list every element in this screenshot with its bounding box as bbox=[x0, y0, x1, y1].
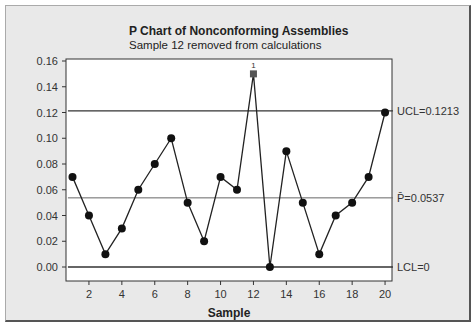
data-point bbox=[118, 224, 126, 232]
data-point bbox=[134, 186, 142, 194]
ucl-label: UCL=0.1213 bbox=[397, 105, 459, 117]
data-point bbox=[332, 212, 340, 220]
x-tick-label: 16 bbox=[313, 288, 325, 300]
data-point bbox=[299, 199, 307, 207]
y-tick-label: 0.12 bbox=[37, 107, 58, 119]
y-tick-label: 0.08 bbox=[37, 158, 58, 170]
data-point bbox=[151, 160, 159, 168]
x-tick-label: 8 bbox=[185, 288, 191, 300]
y-tick-label: 0.06 bbox=[37, 184, 58, 196]
x-tick-label: 6 bbox=[152, 288, 158, 300]
p-bar-label: P̄=0.0537 bbox=[397, 192, 444, 204]
y-tick-label: 0.16 bbox=[37, 55, 58, 67]
y-tick-label: 0.04 bbox=[37, 210, 58, 222]
data-point bbox=[217, 173, 225, 181]
lcl-label: LCL=0 bbox=[397, 261, 430, 273]
data-point bbox=[167, 134, 175, 142]
data-point bbox=[184, 199, 192, 207]
x-axis-label: Sample bbox=[208, 306, 251, 320]
x-tick-label: 20 bbox=[379, 288, 391, 300]
data-point bbox=[200, 237, 208, 245]
chart-subtitle: Sample 12 removed from calculations bbox=[129, 39, 322, 51]
plot-area bbox=[66, 59, 392, 281]
x-tick-label: 2 bbox=[86, 288, 92, 300]
y-tick-label: 0.10 bbox=[37, 132, 58, 144]
data-point bbox=[101, 250, 109, 258]
data-point bbox=[69, 173, 77, 181]
p-chart: P Chart of Nonconforming Assemblies Samp… bbox=[0, 0, 474, 327]
data-point bbox=[266, 263, 274, 271]
x-tick-label: 4 bbox=[119, 288, 125, 300]
test-failure-annotation: 1 bbox=[251, 61, 256, 70]
data-point bbox=[282, 147, 290, 155]
x-tick-label: 18 bbox=[346, 288, 358, 300]
data-point bbox=[365, 173, 373, 181]
y-tick-label: 0.14 bbox=[37, 81, 58, 93]
y-tick-label: 0.02 bbox=[37, 235, 58, 247]
data-point bbox=[348, 199, 356, 207]
data-point bbox=[381, 109, 389, 117]
x-axis: 2468101214161820 bbox=[86, 281, 391, 300]
y-axis: 0.000.020.040.060.080.100.120.140.16 bbox=[37, 55, 66, 273]
excluded-point-marker bbox=[250, 70, 257, 77]
x-tick-label: 12 bbox=[247, 288, 259, 300]
data-point bbox=[85, 212, 93, 220]
data-point bbox=[233, 186, 241, 194]
chart-title: P Chart of Nonconforming Assemblies bbox=[129, 24, 349, 38]
y-tick-label: 0.00 bbox=[37, 261, 58, 273]
x-tick-label: 10 bbox=[214, 288, 226, 300]
x-tick-label: 14 bbox=[280, 288, 292, 300]
data-point bbox=[315, 250, 323, 258]
